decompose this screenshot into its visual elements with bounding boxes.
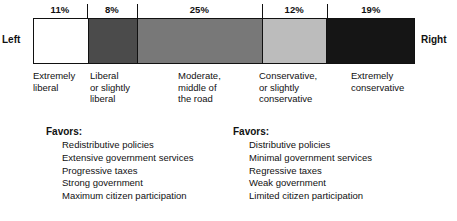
spectrum-segment-2	[88, 19, 138, 63]
category-label-line: Moderate,	[178, 70, 221, 82]
category-label-line: conservative	[259, 93, 317, 105]
segment-percent-4: 12%	[262, 0, 327, 18]
political-spectrum-figure: 11%8%25%12%19% Left Right Extremelyliber…	[0, 0, 457, 221]
category-label-line: or slightly	[259, 82, 317, 94]
tick-mark-4	[327, 4, 328, 18]
category-label-line: middle of	[178, 82, 221, 94]
category-label-3: Moderate,middle ofthe road	[178, 70, 221, 105]
category-label-5: Extremelyconservative	[351, 70, 404, 93]
favors-right-list: Distributive policiesMinimal government …	[233, 139, 372, 203]
category-label-2: Liberalor slightlyliberal	[90, 70, 130, 105]
tick-mark-2	[137, 4, 138, 18]
favors-right-item: Regressive taxes	[249, 165, 372, 178]
category-label-line: the road	[178, 93, 221, 105]
category-label-line: liberal	[33, 82, 75, 94]
spectrum-segment-3	[137, 19, 261, 63]
favors-right-item: Minimal government services	[249, 152, 372, 165]
category-label-line: conservative	[351, 82, 404, 94]
category-label-1: Extremelyliberal	[33, 70, 75, 93]
category-label-line: Extremely	[33, 70, 75, 82]
category-label-row: ExtremelyliberalLiberalor slightlylibera…	[33, 70, 428, 114]
favors-left-column: Favors: Redistributive policiesExtensive…	[46, 126, 193, 203]
favors-right-column: Favors: Distributive policiesMinimal gov…	[233, 126, 372, 203]
segment-percent-1: 11%	[33, 0, 87, 18]
segment-percent-2: 8%	[87, 0, 137, 18]
favors-left-item: Progressive taxes	[62, 165, 193, 178]
segment-percent-3: 25%	[137, 0, 262, 18]
favors-right-item: Weak government	[249, 177, 372, 190]
segment-percent-5: 19%	[327, 0, 415, 18]
percentage-label-row: 11%8%25%12%19%	[33, 0, 415, 18]
category-label-line: Extremely	[351, 70, 404, 82]
category-label-line: liberal	[90, 93, 130, 105]
axis-label-left: Left	[2, 34, 20, 45]
favors-right-title: Favors:	[233, 126, 372, 138]
tick-mark-3	[262, 4, 263, 18]
favors-left-title: Favors:	[46, 126, 193, 138]
spectrum-segment-4	[262, 19, 327, 63]
favors-left-item: Extensive government services	[62, 152, 193, 165]
favors-right-item: Limited citizen participation	[249, 190, 372, 203]
favors-left-item: Maximum citizen participation	[62, 190, 193, 203]
favors-left-item: Strong government	[62, 177, 193, 190]
category-label-4: Conservative,or slightlyconservative	[259, 70, 317, 105]
spectrum-segment-5	[326, 19, 414, 63]
favors-left-list: Redistributive policiesExtensive governm…	[46, 139, 193, 203]
category-label-line: Conservative,	[259, 70, 317, 82]
favors-right-item: Distributive policies	[249, 139, 372, 152]
category-label-line: or slightly	[90, 82, 130, 94]
category-label-line: Liberal	[90, 70, 130, 82]
favors-left-item: Redistributive policies	[62, 139, 193, 152]
axis-label-right: Right	[421, 34, 447, 45]
tick-mark-1	[87, 4, 88, 18]
spectrum-segment-1	[34, 19, 88, 63]
spectrum-bar	[33, 18, 415, 64]
